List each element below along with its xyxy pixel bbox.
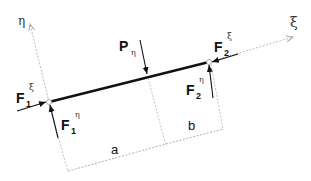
right-joint xyxy=(207,60,212,65)
left-joint xyxy=(47,100,52,105)
load-label-sub: η xyxy=(131,48,136,57)
beam xyxy=(49,62,209,102)
f2-xi-label: F xyxy=(214,39,223,55)
f1-eta-sup: η xyxy=(75,110,80,119)
f1-xi-sub: 1 xyxy=(26,99,31,109)
load-label: P xyxy=(119,38,128,54)
f1-xi-label: F xyxy=(16,90,25,106)
dim-b-label: b xyxy=(188,118,195,133)
f2-eta-sup: η xyxy=(199,75,204,84)
beam-diagram: η ξ P η F 1 ξ F 1 η F 2 ξ F 2 η a b xyxy=(0,0,311,181)
f2-eta-sub: 2 xyxy=(196,91,201,101)
xi-axis-label: ξ xyxy=(290,14,298,30)
f2-eta-arrow xyxy=(209,65,213,98)
f2-xi-sub: 2 xyxy=(224,48,229,58)
f1-eta-sub: 1 xyxy=(71,126,76,136)
eta-axis-label: η xyxy=(18,14,25,28)
f1-eta-arrow xyxy=(50,105,58,138)
ext-line-mid xyxy=(148,78,166,146)
dim-a-label: a xyxy=(111,142,119,157)
load-arrow xyxy=(140,40,147,74)
f1-xi-sup: ξ xyxy=(29,82,34,92)
f1-eta-label: F xyxy=(61,117,70,133)
f2-xi-sup: ξ xyxy=(227,31,232,41)
f2-eta-label: F xyxy=(186,82,195,98)
